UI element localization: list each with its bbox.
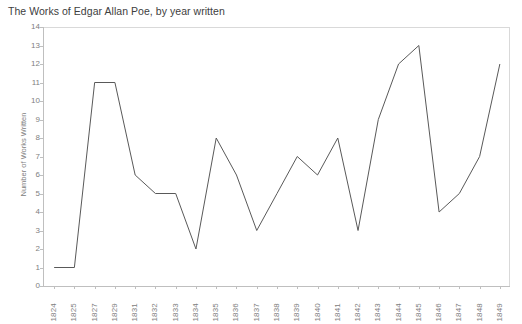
y-tick-label: 11 bbox=[16, 79, 40, 87]
x-tick-label: 1844 bbox=[395, 303, 403, 322]
x-tick-mark bbox=[480, 286, 481, 289]
x-tick-mark bbox=[459, 286, 460, 289]
x-tick-mark bbox=[399, 286, 400, 289]
x-tick-mark bbox=[54, 286, 55, 289]
x-tick-mark bbox=[338, 286, 339, 289]
y-axis-tick-labels: 01234567891011121314 bbox=[12, 0, 40, 324]
x-tick-label: 1827 bbox=[91, 303, 99, 322]
y-tick-label: 8 bbox=[16, 134, 40, 142]
x-tick-label: 1845 bbox=[415, 303, 423, 322]
y-tick-label: 6 bbox=[16, 171, 40, 179]
y-tick-label: 7 bbox=[16, 153, 40, 161]
x-tick-mark bbox=[419, 286, 420, 289]
x-tick-mark bbox=[318, 286, 319, 289]
x-tick-mark bbox=[500, 286, 501, 289]
x-tick-mark bbox=[358, 286, 359, 289]
x-tick-mark bbox=[439, 286, 440, 289]
x-tick-label: 1835 bbox=[212, 303, 220, 322]
x-tick-label: 1848 bbox=[476, 303, 484, 322]
x-tick-label: 1831 bbox=[131, 303, 139, 322]
x-tick-mark bbox=[196, 286, 197, 289]
x-tick-label: 1832 bbox=[151, 303, 159, 322]
x-tick-label: 1833 bbox=[172, 303, 180, 322]
x-tick-mark bbox=[216, 286, 217, 289]
x-tick-label: 1842 bbox=[354, 303, 362, 322]
y-tick-label: 10 bbox=[16, 97, 40, 105]
y-tick-label: 4 bbox=[16, 208, 40, 216]
x-tick-label: 1829 bbox=[111, 303, 119, 322]
x-tick-label: 1849 bbox=[496, 303, 504, 322]
y-tick-label: 1 bbox=[16, 264, 40, 272]
y-tick-label: 9 bbox=[16, 116, 40, 124]
x-axis-tick-labels: 1824182518271829183118321833183418351836… bbox=[0, 289, 522, 322]
plot-frame-border bbox=[44, 27, 510, 286]
x-tick-mark bbox=[176, 286, 177, 289]
y-tick-label: 12 bbox=[16, 60, 40, 68]
x-tick-label: 1841 bbox=[334, 303, 342, 322]
x-tick-label: 1843 bbox=[374, 303, 382, 322]
y-tick-label: 2 bbox=[16, 245, 40, 253]
y-tick-label: 5 bbox=[16, 190, 40, 198]
x-tick-mark bbox=[236, 286, 237, 289]
x-tick-mark bbox=[378, 286, 379, 289]
x-tick-mark bbox=[277, 286, 278, 289]
y-tick-label: 3 bbox=[16, 227, 40, 235]
plot-area bbox=[44, 27, 510, 286]
x-tick-label: 1846 bbox=[435, 303, 443, 322]
x-tick-label: 1847 bbox=[455, 303, 463, 322]
x-tick-mark bbox=[95, 286, 96, 289]
x-tick-label: 1836 bbox=[232, 303, 240, 322]
x-tick-mark bbox=[257, 286, 258, 289]
x-tick-label: 1838 bbox=[273, 303, 281, 322]
x-tick-label: 1824 bbox=[50, 303, 58, 322]
x-tick-label: 1839 bbox=[293, 303, 301, 322]
x-tick-mark bbox=[155, 286, 156, 289]
y-tick-label: 14 bbox=[16, 23, 40, 31]
x-tick-mark bbox=[74, 286, 75, 289]
x-tick-label: 1840 bbox=[314, 303, 322, 322]
x-tick-label: 1837 bbox=[253, 303, 261, 322]
y-tick-label: 13 bbox=[16, 42, 40, 50]
line-chart: The Works of Edgar Allan Poe, by year wr… bbox=[0, 0, 522, 324]
x-tick-mark bbox=[115, 286, 116, 289]
x-tick-label: 1825 bbox=[70, 303, 78, 322]
x-tick-mark bbox=[297, 286, 298, 289]
x-tick-label: 1834 bbox=[192, 303, 200, 322]
x-tick-mark bbox=[135, 286, 136, 289]
